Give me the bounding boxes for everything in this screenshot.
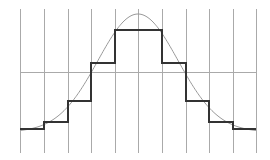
chart-svg xyxy=(0,0,270,160)
gaussian-step-diagram: Gaussian bell curve approximated by a pi… xyxy=(0,0,270,160)
